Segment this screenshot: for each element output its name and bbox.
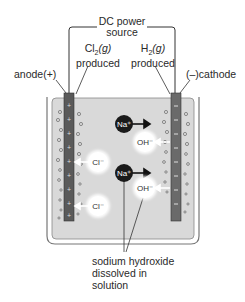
hydroxide-ion-2: OH⁻ xyxy=(135,178,155,198)
svg-text:+: + xyxy=(67,130,71,137)
svg-text:+: + xyxy=(67,102,71,109)
cathode-gas-word: produced xyxy=(130,58,176,69)
svg-text:+: + xyxy=(67,144,71,151)
anode-gas-label: Cl2(g) produced xyxy=(75,43,121,69)
cathode-gas-formula: H2(g) xyxy=(130,43,176,58)
chloride-ion-1: Cl⁻ xyxy=(88,152,108,172)
sodium-ion-1: Na⁺ xyxy=(115,115,133,133)
svg-text:+: + xyxy=(67,200,71,207)
power-source-line2: source xyxy=(97,27,147,38)
anode-gas-formula: Cl2(g) xyxy=(75,43,121,58)
anode-gas-word: produced xyxy=(75,58,121,69)
chloride-ion-2: Cl⁻ xyxy=(88,196,108,216)
sodium-ion-2: Na⁺ xyxy=(115,164,133,182)
svg-text:+: + xyxy=(67,172,71,179)
power-source-label: DC power source xyxy=(97,16,147,38)
product-line3: solution xyxy=(92,279,174,291)
product-line1: sodium hydroxide xyxy=(92,255,174,267)
anode-label: anode(+) xyxy=(14,69,56,80)
product-label: sodium hydroxide dissolved in solution xyxy=(92,255,174,291)
product-line2: dissolved in xyxy=(92,267,174,279)
hydroxide-ion-1: OH⁻ xyxy=(135,132,155,152)
svg-text:+: + xyxy=(67,158,71,165)
svg-text:+: + xyxy=(67,212,71,219)
svg-text:+: + xyxy=(67,116,71,123)
cathode-gas-label: H2(g) produced xyxy=(130,43,176,69)
cathode-label: (–)cathode xyxy=(186,69,236,80)
svg-text:+: + xyxy=(67,186,71,193)
